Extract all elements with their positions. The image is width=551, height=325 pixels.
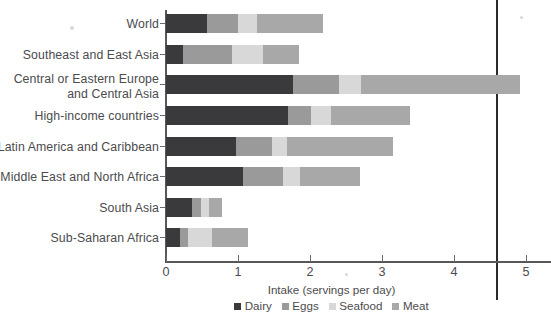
bar-segment-seafood <box>201 198 209 217</box>
category-label: South Asia <box>0 201 159 215</box>
category-label-line: Southeast and East Asia <box>0 48 159 62</box>
x-axis-tick <box>166 255 167 262</box>
legend-swatch-icon <box>234 303 241 310</box>
x-axis-tick <box>382 255 383 262</box>
x-axis-tick <box>310 255 311 262</box>
bar-segment-seafood <box>188 228 212 247</box>
category-label: Sub-Saharan Africa <box>0 231 159 245</box>
bar-segment-eggs <box>288 106 311 125</box>
bar-segment-eggs <box>236 137 272 156</box>
bar-segment-eggs <box>243 167 283 186</box>
legend-swatch-icon <box>282 303 289 310</box>
bar-segment-eggs <box>207 14 238 33</box>
legend-swatch-icon <box>392 303 399 310</box>
stacked-bar <box>166 198 222 217</box>
bar-segment-seafood <box>283 167 300 186</box>
bar-row: Latin America and Caribbean <box>0 137 551 167</box>
bar-segment-seafood <box>232 45 263 64</box>
category-label-line: Central or Eastern Europe <box>0 72 159 87</box>
bar-segment-dairy <box>166 75 293 94</box>
bar-segment-dairy <box>166 167 243 186</box>
category-label: Latin America and Caribbean <box>0 140 159 154</box>
x-axis-tick <box>454 255 455 262</box>
x-axis-tick-label: 4 <box>439 265 469 279</box>
chart-legend: DairyEggsSeafoodMeat <box>166 299 497 312</box>
y-axis-tick <box>160 115 165 116</box>
category-label: High-income countries <box>0 109 159 123</box>
category-label: Southeast and East Asia <box>0 48 159 62</box>
category-label-line: and Central Asia <box>0 87 159 102</box>
legend-label: Dairy <box>245 299 272 312</box>
y-axis-tick <box>160 23 165 24</box>
bar-segment-meat <box>300 167 360 186</box>
x-axis-tick <box>238 255 239 262</box>
bar-segment-meat <box>209 198 222 217</box>
y-axis-tick <box>160 54 165 55</box>
y-axis-tick <box>160 207 165 208</box>
legend-label: Meat <box>403 299 429 312</box>
scan-speck <box>345 273 348 276</box>
legend-label: Seafood <box>339 299 382 312</box>
x-axis-tick <box>526 255 527 262</box>
x-axis-title: Intake (servings per day) <box>166 283 497 296</box>
bar-segment-dairy <box>166 45 183 64</box>
stacked-bar <box>166 228 248 247</box>
bar-row: High-income countries <box>0 106 551 136</box>
bar-segment-dairy <box>166 228 180 247</box>
category-label-line: Middle East and North Africa <box>0 170 159 184</box>
bar-segment-meat <box>212 228 248 247</box>
category-label-line: Latin America and Caribbean <box>0 140 159 154</box>
bar-row: Sub-Saharan Africa <box>0 228 551 258</box>
category-label: World <box>0 17 159 31</box>
stacked-bar <box>166 75 520 94</box>
bar-row: South Asia <box>0 198 551 228</box>
bar-segment-seafood <box>272 137 287 156</box>
bar-row: Southeast and East Asia <box>0 45 551 75</box>
x-axis-tick-label: 0 <box>151 265 181 279</box>
bar-segment-seafood <box>339 75 361 94</box>
x-axis-tick-label: 1 <box>223 265 253 279</box>
bar-segment-dairy <box>166 137 236 156</box>
bar-segment-eggs <box>183 45 232 64</box>
category-label: Middle East and North Africa <box>0 170 159 184</box>
bar-segment-dairy <box>166 14 207 33</box>
bar-segment-eggs <box>192 198 201 217</box>
bar-segment-meat <box>257 14 323 33</box>
legend-item-meat[interactable]: Meat <box>392 299 428 312</box>
bar-segment-meat <box>361 75 520 94</box>
y-axis-tick <box>160 237 165 238</box>
legend-swatch-icon <box>329 303 336 310</box>
bar-segment-seafood <box>238 14 257 33</box>
x-axis-line <box>165 261 551 263</box>
x-axis-tick-label: 2 <box>295 265 325 279</box>
bar-segment-meat <box>331 106 410 125</box>
stacked-bar-chart: WorldSoutheast and East AsiaCentral or E… <box>0 0 551 325</box>
stacked-bar <box>166 167 360 186</box>
legend-item-eggs[interactable]: Eggs <box>282 299 319 312</box>
bar-row: Central or Eastern Europeand Central Asi… <box>0 75 551 105</box>
legend-label: Eggs <box>292 299 318 312</box>
y-axis-tick <box>160 176 165 177</box>
x-axis-tick-label: 3 <box>367 265 397 279</box>
legend-item-seafood[interactable]: Seafood <box>329 299 383 312</box>
bar-row: World <box>0 14 551 44</box>
stacked-bar <box>166 45 299 64</box>
stacked-bar <box>166 14 323 33</box>
category-label-line: High-income countries <box>0 109 159 123</box>
category-label: Central or Eastern Europeand Central Asi… <box>0 72 159 101</box>
bar-segment-seafood <box>311 106 331 125</box>
bar-segment-eggs <box>293 75 339 94</box>
stacked-bar <box>166 106 410 125</box>
category-label-line: South Asia <box>0 201 159 215</box>
category-label-line: World <box>0 17 159 31</box>
y-axis-tick <box>160 84 165 85</box>
legend-item-dairy[interactable]: Dairy <box>234 299 272 312</box>
bar-segment-dairy <box>166 106 288 125</box>
bar-segment-dairy <box>166 198 192 217</box>
category-label-line: Sub-Saharan Africa <box>0 231 159 245</box>
bar-row: Middle East and North Africa <box>0 167 551 197</box>
bar-segment-meat <box>287 137 393 156</box>
bar-segment-meat <box>263 45 299 64</box>
y-axis-tick <box>160 146 165 147</box>
stacked-bar <box>166 137 393 156</box>
